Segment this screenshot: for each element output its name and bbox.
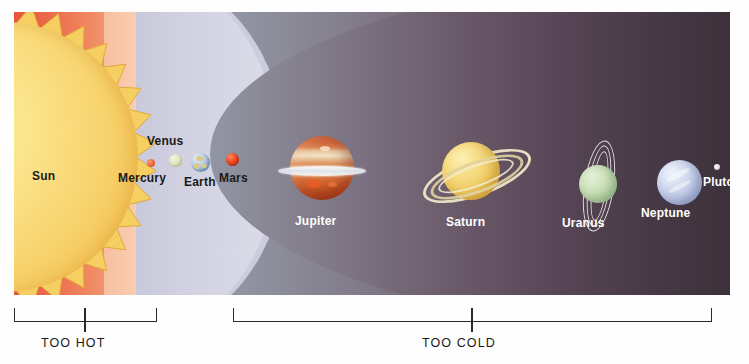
- bracket-label-too-hot: TOO HOT: [41, 336, 105, 350]
- label-mars: Mars: [219, 171, 248, 185]
- label-mercury: Mercury: [118, 171, 166, 185]
- label-uranus: Uranus: [562, 216, 605, 230]
- sun-graphic: [14, 12, 168, 295]
- planet-earth: [191, 153, 210, 172]
- planet-venus: [169, 154, 182, 167]
- planet-saturn-graphic: [416, 130, 532, 222]
- diagram-canvas: Sun Mercury Venus Earth Mars Jupiter: [0, 0, 749, 364]
- bracket-too-hot-tick: [84, 308, 86, 332]
- label-pluto: Pluto: [703, 175, 730, 189]
- planet-neptune: [657, 160, 702, 205]
- label-sun: Sun: [32, 169, 55, 183]
- label-saturn: Saturn: [446, 215, 485, 229]
- planet-pluto: [714, 164, 720, 170]
- label-jupiter: Jupiter: [295, 214, 336, 228]
- planet-jupiter-graphic: [278, 130, 366, 208]
- bracket-too-cold-tick: [471, 308, 473, 332]
- planet-mars: [226, 153, 239, 166]
- bracket-label-too-cold: TOO COLD: [422, 336, 496, 350]
- planet-mercury: [147, 159, 155, 167]
- illustration-panel: Sun Mercury Venus Earth Mars Jupiter: [14, 12, 730, 295]
- planet-uranus: [579, 165, 617, 203]
- label-neptune: Neptune: [641, 206, 690, 220]
- jupiter-ring: [278, 166, 366, 176]
- label-earth: Earth: [184, 175, 216, 189]
- label-venus: Venus: [147, 134, 183, 148]
